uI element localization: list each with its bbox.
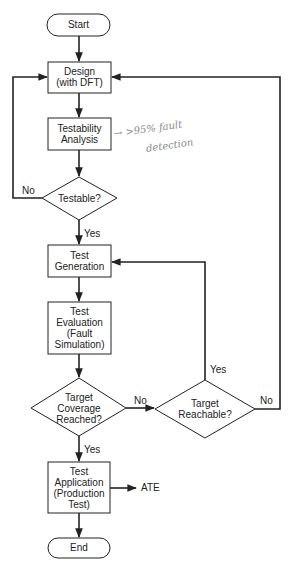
reachable-label: Target Reachable? [155, 398, 255, 420]
application-label: Test Application (Production Test) [48, 466, 110, 510]
generation-label: Test Generation [48, 250, 111, 272]
coverage-yes-label: Yes [84, 444, 100, 455]
end-label: End [48, 542, 110, 553]
coverage-label: Target Coverage Reached? [31, 392, 127, 425]
coverage-no-label: No [134, 395, 147, 406]
edge-reachable-yes-loop [112, 262, 205, 380]
reachable-no-label: No [260, 395, 273, 406]
testability-label: Testability Analysis [48, 123, 111, 145]
testable-no-label: No [22, 185, 35, 196]
evaluation-label: Test Evaluation (Fault Simulation) [48, 306, 111, 350]
edge-testable-no-loop [13, 77, 47, 198]
testable-yes-label: Yes [84, 228, 100, 239]
reachable-yes-label: Yes [210, 364, 226, 375]
testable-label: Testable? [42, 193, 117, 204]
ate-label: ATE [141, 482, 160, 493]
start-label: Start [47, 19, 110, 30]
design-label: Design (with DFT) [48, 66, 111, 88]
